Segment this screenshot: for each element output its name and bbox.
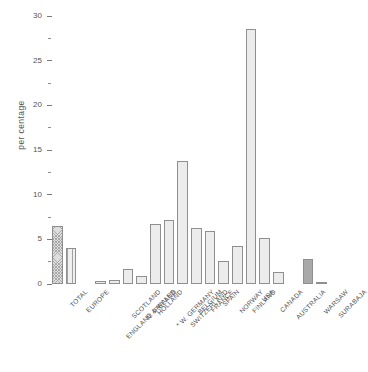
bar-slot: [232, 16, 243, 284]
bar-slot: [191, 16, 202, 284]
bar: [273, 272, 284, 285]
bar: [259, 238, 270, 284]
y-tick-minor: [0, 78, 52, 88]
bar: [123, 269, 134, 284]
bar-slot: [136, 16, 147, 284]
y-tick-mark: [48, 127, 51, 128]
bar-slot: [164, 16, 175, 284]
bar-slot: [246, 16, 257, 284]
bar: [218, 261, 229, 284]
y-tick-mark: [48, 217, 51, 218]
y-tick-minor: [0, 212, 52, 222]
bar-slot: [205, 16, 216, 284]
y-tick-minor: [0, 33, 52, 43]
bar: [303, 259, 314, 284]
x-axis-tick-label: TOTAL: [69, 288, 89, 308]
y-tick-label: 30: [33, 11, 42, 21]
y-tick-label: 25: [33, 56, 42, 66]
y-tick-label: 15: [33, 145, 42, 155]
plot-area: [52, 16, 330, 284]
y-tick-label: 10: [33, 190, 42, 200]
y-tick-major: 10: [0, 190, 52, 200]
bar: [205, 231, 216, 284]
bar-slot: [177, 16, 188, 284]
bar-slot: [52, 16, 63, 284]
y-tick-label: 20: [33, 100, 42, 110]
bar-slot: [66, 16, 77, 284]
bar: [177, 161, 188, 284]
y-tick-major: 5: [0, 234, 52, 244]
y-tick-major: 30: [0, 11, 52, 21]
bar: [164, 220, 175, 284]
y-tick-minor: [0, 257, 52, 267]
bar: [52, 226, 63, 284]
y-tick-mark: [48, 172, 51, 173]
y-tick-major: 0: [0, 279, 52, 289]
bar: [232, 246, 243, 284]
bar-slot: [150, 16, 161, 284]
bar-slot: [316, 16, 327, 284]
bar-slot: [109, 16, 120, 284]
bar: [136, 276, 147, 284]
y-tick-mark: [48, 83, 51, 84]
y-tick-label: 0: [38, 279, 42, 289]
bar-slot: [303, 16, 314, 284]
y-tick-major: 25: [0, 56, 52, 66]
bar: [150, 224, 161, 284]
bar-slot: [123, 16, 134, 284]
y-tick-minor: [0, 167, 52, 177]
bar: [66, 248, 77, 284]
y-tick-major: 20: [0, 100, 52, 110]
y-tick-minor: [0, 123, 52, 133]
bar: [246, 29, 257, 284]
y-tick-label: 5: [38, 234, 42, 244]
x-axis-labels: TOTALEUROPEENGLAND & WALESSCOTLANDN. IRE…: [52, 284, 330, 372]
y-tick-mark: [48, 261, 51, 262]
bar: [191, 228, 202, 284]
bar-slot: [273, 16, 284, 284]
y-tick-major: 15: [0, 145, 52, 155]
y-tick-mark: [48, 38, 51, 39]
bar-slot: [259, 16, 270, 284]
bar-slot: [218, 16, 229, 284]
bar-slot: [95, 16, 106, 284]
